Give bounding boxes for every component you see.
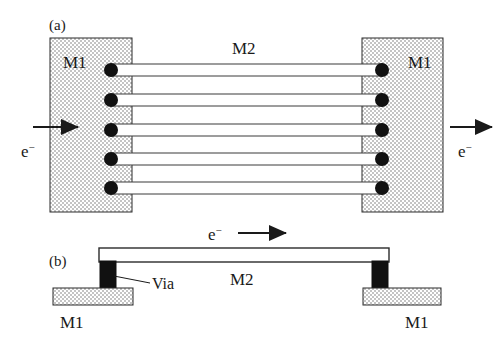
- panel-a-electron-in-charge: −: [29, 141, 35, 153]
- via-dot: [375, 123, 389, 137]
- panel-b-via-label: Via: [152, 275, 174, 292]
- panel-b-metal1-right-bar: [363, 288, 441, 305]
- panel-b: e− (b) M1 M1 Via M2: [49, 224, 441, 332]
- panel-a-metal2-label: M2: [232, 39, 256, 58]
- metal2-line: [112, 64, 382, 76]
- via-dot: [375, 93, 389, 107]
- via-dot: [104, 63, 118, 77]
- panel-b-via-left: [100, 261, 116, 289]
- via-dot: [104, 93, 118, 107]
- panel-b-metal2-label: M2: [230, 270, 254, 289]
- via-dot: [104, 181, 118, 195]
- panel-a-metal2-lines: [112, 64, 382, 194]
- panel-b-electron-label: e−: [208, 224, 222, 244]
- panel-b-metal1-left-label: M1: [60, 313, 84, 332]
- via-dot: [375, 63, 389, 77]
- panel-a-label: (a): [49, 17, 66, 34]
- metal2-line: [112, 124, 382, 136]
- panel-a-metal1-right-label: M1: [408, 53, 432, 72]
- panel-a-electron-out-charge: −: [466, 141, 472, 153]
- panel-b-metal1-right-label: M1: [405, 313, 429, 332]
- via-chain-diagram: (a) M1 M1 M2: [0, 0, 497, 344]
- panel-b-metal2-bar: [99, 248, 389, 262]
- panel-a-metal1-left-label: M1: [63, 53, 87, 72]
- panel-a-electron-in-label: e−: [21, 141, 35, 161]
- via-dot: [375, 181, 389, 195]
- panel-b-electron-charge: −: [216, 224, 222, 236]
- panel-a-electron-out-label: e−: [458, 141, 472, 161]
- panel-b-via-leader-line: [114, 276, 150, 283]
- metal2-line: [112, 153, 382, 165]
- via-dot: [104, 123, 118, 137]
- via-dot: [375, 152, 389, 166]
- metal2-line: [112, 94, 382, 106]
- panel-b-label: (b): [49, 253, 67, 270]
- figure-container: (a) M1 M1 M2: [0, 0, 497, 344]
- via-dot: [104, 152, 118, 166]
- metal2-line: [112, 182, 382, 194]
- panel-a: (a) M1 M1 M2: [21, 17, 492, 212]
- panel-b-via-right: [372, 261, 388, 289]
- panel-b-metal1-left-bar: [53, 288, 133, 305]
